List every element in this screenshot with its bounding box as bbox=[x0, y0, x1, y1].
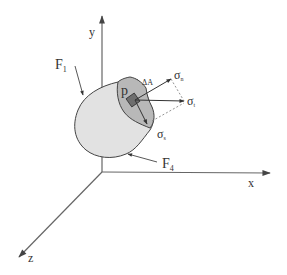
f1-label: F1 bbox=[55, 57, 67, 74]
x-axis-label: x bbox=[248, 176, 254, 190]
dashed-line-s-t bbox=[152, 103, 184, 121]
sigma-n-label: σn bbox=[174, 68, 183, 82]
delta-a-label: ΔA bbox=[142, 78, 153, 87]
f4-leader bbox=[128, 154, 157, 162]
labels: y x z F1 F4 p ΔA σn σt σs bbox=[28, 25, 254, 265]
x-axis bbox=[102, 172, 270, 173]
solid-body bbox=[75, 77, 154, 157]
stress-vector-diagram: y x z F1 F4 p ΔA σn σt σs bbox=[0, 0, 287, 275]
sigma-s-label: σs bbox=[157, 127, 166, 141]
point-p-label: p bbox=[121, 83, 128, 98]
z-axis-label: z bbox=[28, 251, 33, 265]
dashed-line-n-t bbox=[171, 79, 184, 101]
f1-leader bbox=[75, 66, 83, 95]
f4-label: F4 bbox=[162, 156, 174, 173]
z-axis bbox=[19, 172, 102, 257]
y-axis-label: y bbox=[89, 25, 95, 39]
sigma-t-label: σt bbox=[187, 94, 195, 108]
